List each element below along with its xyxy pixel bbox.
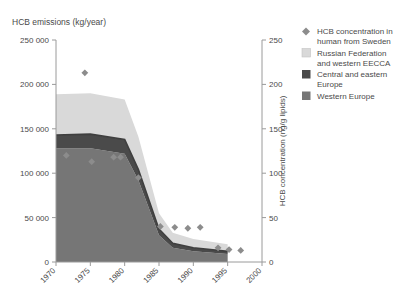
legend-label-russia-line2: and western EECCA [317,59,391,68]
scatter-marker-diamond [197,224,204,231]
legend-label-russia: Russian Federation [317,49,386,58]
right-tick-label: 250 [269,36,283,45]
legend-swatch-markers-icon [302,28,310,36]
right-tick-label: 50 [269,214,278,223]
legend-swatch-russia-icon [302,49,311,58]
legend-label-central-line2: Europe [317,80,343,89]
x-tick-label: 1995 [210,266,229,285]
left-tick-label: 50 000 [25,214,50,223]
right-axis-title: HCB concentration (ng/g lipids) [278,95,287,206]
legend-label-central: Central and eastern [317,70,387,79]
x-tick-label: 1985 [141,266,160,285]
left-tick-label: 200 000 [20,80,49,89]
legend-swatch-central-icon [302,70,311,79]
chart-canvas: 050 000100 000150 000200 000250 00005010… [0,0,412,300]
legend-swatch-western-icon [302,92,311,101]
scatter-marker-diamond [171,224,178,231]
left-tick-label: 250 000 [20,36,49,45]
legend-label-markers-line2: human from Sweden [317,37,391,46]
x-tick-label: 1975 [73,266,92,285]
legend-label-western: Western Europe [317,92,375,101]
scatter-marker-diamond [184,225,191,232]
left-axis-title: HCB emissions (kg/year) [12,17,106,27]
x-tick-label: 1970 [38,266,57,285]
left-tick-label: 100 000 [20,169,49,178]
right-tick-label: 0 [269,258,274,267]
left-tick-label: 0 [45,258,50,267]
hcb-emissions-chart: 050 000100 000150 000200 000250 00005010… [0,0,412,300]
scatter-marker-diamond [237,247,244,254]
x-tick-label: 2000 [244,266,263,285]
left-tick-label: 150 000 [20,125,49,134]
x-tick-label: 1980 [107,266,126,285]
scatter-marker-diamond [81,69,88,76]
right-tick-label: 200 [269,80,283,89]
x-tick-label: 1990 [176,266,195,285]
legend-label-markers: HCB concentration in [317,27,393,36]
